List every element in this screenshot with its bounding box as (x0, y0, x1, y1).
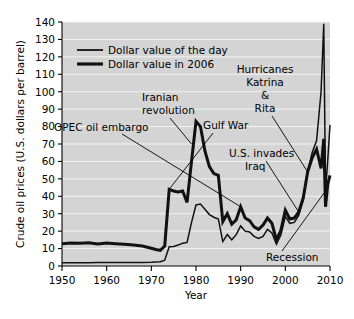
x-tick-label-1960: 1960 (93, 274, 120, 286)
annotation-us-invades-iraq-line1: U.S. invades (229, 147, 294, 159)
annotation-iranian-revolution-line2: revolution (142, 104, 195, 116)
chart-canvas: 0102030405060708090100110120130140 19501… (0, 0, 354, 319)
y-tick-label-110: 110 (35, 68, 55, 80)
y-axis-ticks: 0102030405060708090100110120130140 (35, 16, 62, 272)
y-tick-label-80: 80 (42, 120, 55, 132)
x-tick-label-2010: 2010 (317, 274, 344, 286)
x-axis-ticks: 1950196019701980199020002010 (49, 266, 344, 286)
annotation-iranian-revolution-line1: Iranian (142, 91, 179, 103)
annotation-opec-oil-embargo: OPEC oil embargo (54, 121, 149, 133)
y-tick-label-30: 30 (42, 208, 55, 220)
y-axis-title: Crude oil prices (U.S. dollars per barre… (14, 40, 26, 248)
y-tick-label-120: 120 (35, 51, 55, 63)
annotation-us-invades-iraq-line2: Iraq (245, 160, 266, 172)
annotation-hurricanes-line3: & (261, 89, 269, 101)
x-tick-label-1990: 1990 (227, 274, 254, 286)
crude-oil-price-chart: 0102030405060708090100110120130140 19501… (0, 0, 354, 319)
annotation-hurricanes-line1: Hurricanes (237, 63, 294, 75)
y-tick-label-50: 50 (42, 173, 55, 185)
annotation-gulf-war: Gulf War (203, 119, 249, 131)
y-tick-label-100: 100 (35, 86, 55, 98)
x-tick-label-2000: 2000 (272, 274, 299, 286)
annotation-recession: Recession (266, 251, 318, 263)
y-tick-label-140: 140 (35, 16, 55, 28)
y-tick-label-10: 10 (42, 242, 55, 254)
x-tick-label-1980: 1980 (183, 274, 210, 286)
legend-label-dollar-value-of-the-day: Dollar value of the day (108, 44, 228, 56)
y-tick-label-130: 130 (35, 33, 55, 45)
y-tick-label-90: 90 (42, 103, 55, 115)
x-tick-label-1970: 1970 (138, 274, 165, 286)
y-tick-label-20: 20 (42, 225, 55, 237)
annotation-hurricanes-line2: Katrina (246, 76, 284, 88)
y-tick-label-70: 70 (42, 138, 55, 150)
legend-label-dollar-value-in-2006: Dollar value in 2006 (108, 58, 214, 70)
y-tick-label-40: 40 (42, 190, 55, 202)
x-axis-title: Year (184, 289, 208, 301)
y-tick-label-0: 0 (48, 260, 55, 272)
annotation-hurricanes-line4: Rita (255, 102, 276, 114)
x-tick-label-1950: 1950 (49, 274, 76, 286)
y-tick-label-60: 60 (42, 155, 55, 167)
